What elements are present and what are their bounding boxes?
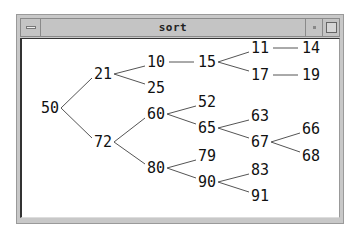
tree-node-52: 52 <box>198 93 216 111</box>
tree-node-50: 50 <box>41 99 59 117</box>
tree-node-11: 11 <box>251 39 269 57</box>
tree-edge <box>167 106 196 114</box>
tree-node-68: 68 <box>302 147 320 165</box>
tree-edge <box>114 118 145 142</box>
tree-node-60: 60 <box>147 105 165 123</box>
tree-edge <box>167 160 196 168</box>
tree-node-72: 72 <box>94 133 112 151</box>
tree-node-25: 25 <box>147 79 165 97</box>
tree-node-67: 67 <box>251 133 269 151</box>
tree-edge <box>167 114 196 124</box>
tree-edge <box>271 142 300 152</box>
tree-edge <box>218 174 249 182</box>
tree-node-66: 66 <box>302 120 320 138</box>
tree-edge <box>218 182 249 192</box>
tree-node-91: 91 <box>251 187 269 205</box>
tree-node-90: 90 <box>198 173 216 191</box>
tree-node-21: 21 <box>94 65 112 83</box>
tree-node-83: 83 <box>251 161 269 179</box>
tree-node-63: 63 <box>251 107 269 125</box>
tree-node-80: 80 <box>147 159 165 177</box>
tree-edge <box>114 66 145 74</box>
tree-edge <box>271 133 300 142</box>
tree-edge <box>167 168 196 178</box>
tree-node-65: 65 <box>198 119 216 137</box>
tree-edge <box>114 74 145 84</box>
tree-edge <box>61 78 92 108</box>
binary-tree-diagram: 5021102515111417197260526563676668807990… <box>0 0 356 231</box>
tree-edge <box>218 62 249 71</box>
tree-edge <box>61 108 92 138</box>
tree-node-79: 79 <box>198 147 216 165</box>
tree-node-14: 14 <box>302 39 320 57</box>
tree-node-19: 19 <box>302 66 320 84</box>
tree-edge <box>218 128 249 138</box>
tree-edge <box>218 52 249 62</box>
tree-node-10: 10 <box>147 53 165 71</box>
tree-edge <box>218 120 249 128</box>
tree-node-15: 15 <box>198 53 216 71</box>
tree-node-17: 17 <box>251 66 269 84</box>
tree-edge <box>114 142 145 164</box>
